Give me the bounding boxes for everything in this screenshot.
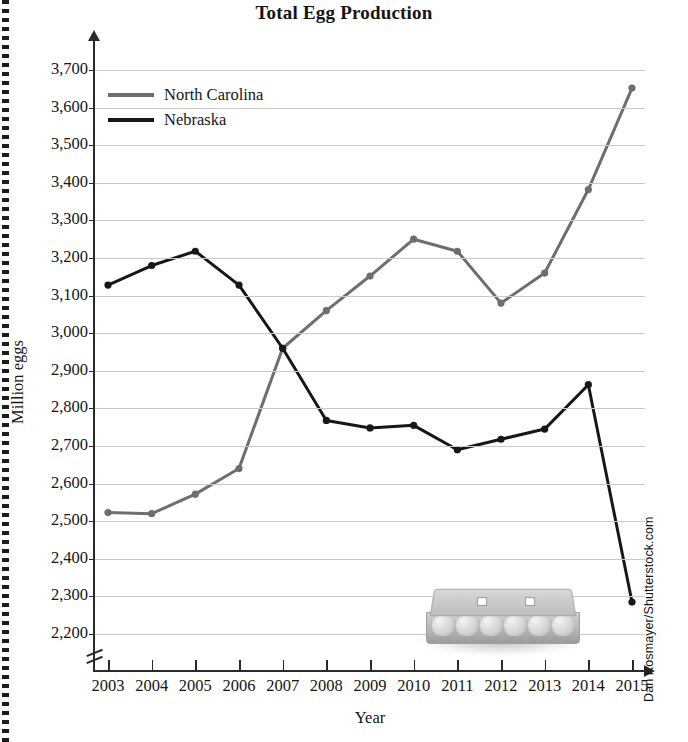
- y-tick-label: 2,500: [30, 512, 88, 528]
- egg: [552, 615, 574, 636]
- egg-carton-lid: [430, 589, 577, 616]
- y-tick-label: 3,700: [30, 61, 88, 77]
- y-tick-mark: [89, 634, 95, 635]
- x-axis-title: Year: [95, 708, 645, 728]
- image-credit: Dan Kosmayer/Shutterstock.com: [642, 472, 656, 702]
- legend-swatch: [108, 118, 154, 122]
- x-tick-mark: [457, 660, 459, 671]
- data-point-marker: [323, 417, 330, 424]
- legend-label: Nebraska: [164, 110, 226, 130]
- y-tick-mark: [89, 70, 95, 71]
- x-tick-mark: [283, 660, 285, 671]
- data-point-marker: [454, 446, 461, 453]
- gridline: [95, 333, 645, 334]
- data-point-marker: [148, 262, 155, 269]
- egg: [456, 615, 478, 636]
- series-line: [108, 88, 632, 514]
- y-tick-mark: [89, 258, 95, 259]
- y-tick-label: 2,600: [30, 475, 88, 491]
- plot-area: [95, 70, 645, 634]
- gridline: [95, 145, 645, 146]
- x-tick-mark: [195, 660, 197, 671]
- data-point-marker: [541, 269, 548, 276]
- gridline: [95, 408, 645, 409]
- y-axis-title: Million eggs: [8, 317, 28, 447]
- x-tick-mark: [108, 660, 110, 671]
- x-tick-mark: [239, 660, 241, 671]
- y-tick-mark: [89, 521, 95, 522]
- y-axis-arrowhead: [88, 30, 100, 41]
- y-tick-label: 2,900: [30, 362, 88, 378]
- y-tick-mark: [89, 596, 95, 597]
- egg: [504, 615, 526, 636]
- egg: [432, 615, 454, 636]
- gridline: [95, 521, 645, 522]
- egg: [528, 615, 550, 636]
- data-point-marker: [585, 381, 592, 388]
- x-tick-mark: [588, 660, 590, 671]
- axis-break-symbol: [86, 648, 103, 666]
- gridline: [95, 484, 645, 485]
- y-tick-label: 2,700: [30, 437, 88, 453]
- egg-carton-image: [420, 584, 582, 656]
- legend-label: North Carolina: [164, 85, 263, 105]
- y-tick-label: 3,600: [30, 99, 88, 115]
- data-point-marker: [192, 491, 199, 498]
- y-tick-label: 3,100: [30, 287, 88, 303]
- x-tick-mark: [370, 660, 372, 671]
- y-tick-mark: [89, 183, 95, 184]
- y-tick-label: 2,400: [30, 550, 88, 566]
- gridline: [95, 183, 645, 184]
- y-tick-label: 2,200: [30, 625, 88, 641]
- chart-legend: North CarolinaNebraska: [108, 82, 338, 132]
- gridline: [95, 371, 645, 372]
- y-tick-label: 3,000: [30, 324, 88, 340]
- data-point-marker: [410, 422, 417, 429]
- chart-figure: Total Egg Production 3,7003,6003,5003,40…: [0, 0, 688, 742]
- x-tick-mark: [501, 660, 503, 671]
- gridline: [95, 220, 645, 221]
- y-tick-mark: [89, 371, 95, 372]
- gridline: [95, 559, 645, 560]
- chart-title: Total Egg Production: [0, 2, 688, 24]
- data-point-marker: [104, 509, 111, 516]
- y-tick-label: 3,300: [30, 211, 88, 227]
- data-point-marker: [497, 300, 504, 307]
- y-tick-mark: [89, 408, 95, 409]
- data-point-marker: [454, 248, 461, 255]
- gridline: [95, 446, 645, 447]
- y-tick-mark: [89, 296, 95, 297]
- data-point-marker: [192, 248, 199, 255]
- data-point-marker: [235, 465, 242, 472]
- x-tick-mark: [152, 660, 154, 671]
- series-lines: [95, 70, 645, 634]
- data-point-marker: [148, 510, 155, 517]
- data-point-marker: [323, 307, 330, 314]
- legend-item: North Carolina: [108, 82, 338, 107]
- data-point-marker: [585, 186, 592, 193]
- y-axis-tick-labels: 3,7003,6003,5003,4003,3003,2003,1003,000…: [30, 70, 88, 634]
- y-tick-mark: [89, 220, 95, 221]
- gridline: [95, 296, 645, 297]
- egg: [480, 615, 502, 636]
- y-tick-label: 3,500: [30, 136, 88, 152]
- egg-carton-lid-hole: [525, 597, 536, 606]
- y-tick-label: 3,400: [30, 174, 88, 190]
- x-tick-mark: [632, 660, 634, 671]
- data-point-marker: [366, 272, 373, 279]
- legend-item: Nebraska: [108, 107, 338, 132]
- data-point-marker: [541, 425, 548, 432]
- y-tick-mark: [89, 108, 95, 109]
- gridline: [95, 258, 645, 259]
- data-point-marker: [235, 281, 242, 288]
- y-tick-label: 2,800: [30, 399, 88, 415]
- y-tick-mark: [89, 484, 95, 485]
- legend-swatch: [108, 93, 154, 97]
- y-tick-mark: [89, 145, 95, 146]
- data-point-marker: [628, 598, 635, 605]
- egg-carton-base: [426, 612, 580, 644]
- y-tick-label: 3,200: [30, 249, 88, 265]
- egg-carton-lid-hole: [477, 597, 487, 606]
- data-point-marker: [279, 345, 286, 352]
- y-tick-mark: [89, 559, 95, 560]
